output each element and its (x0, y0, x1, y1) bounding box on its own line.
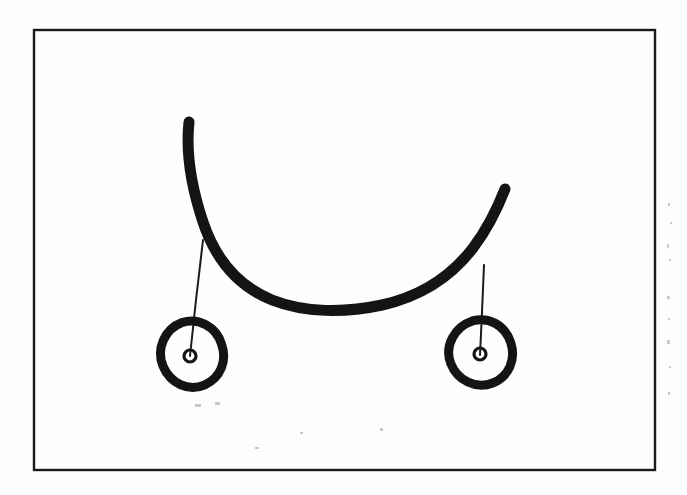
scan-speck (380, 428, 383, 431)
scan-speck (195, 404, 201, 407)
scan-speck (667, 340, 670, 344)
scanned-figure-page: Hand-drawn sketch of a hanging curved ca… (0, 0, 687, 495)
scan-speck (667, 296, 670, 299)
scan-speck (255, 447, 259, 449)
scan-speck (669, 259, 671, 261)
scan-speck (668, 392, 670, 395)
scan-speck (300, 432, 303, 434)
scan-speck (669, 366, 671, 368)
scan-speck (668, 318, 670, 320)
scan-speck (667, 244, 669, 248)
figure-drawing-canvas (0, 0, 687, 495)
page-background (0, 0, 687, 495)
scan-speck (668, 203, 670, 206)
scan-speck (670, 222, 672, 224)
scan-speck (215, 402, 220, 405)
